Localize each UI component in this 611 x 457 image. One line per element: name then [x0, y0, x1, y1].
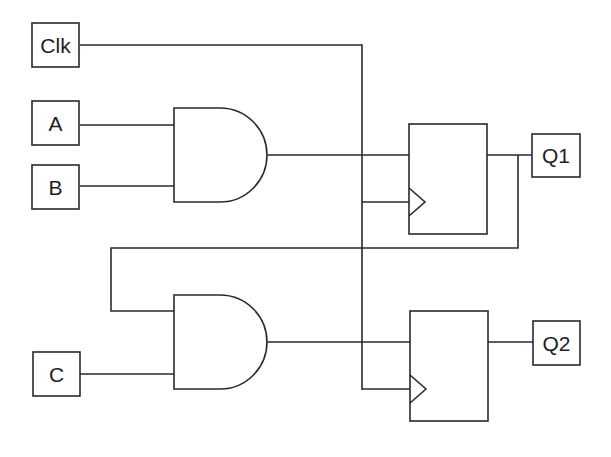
input-clk: Clk — [32, 23, 79, 67]
input-c-label: C — [49, 363, 64, 386]
output-q2-label: Q2 — [542, 332, 570, 355]
input-clk-label: Clk — [40, 34, 71, 57]
input-c: C — [33, 352, 80, 396]
input-b-label: B — [48, 176, 62, 199]
flip-flop-1 — [409, 124, 487, 234]
and-gate-2 — [174, 295, 267, 389]
and-gate-1 — [174, 108, 267, 202]
input-a-label: A — [48, 112, 62, 135]
input-a: A — [32, 101, 79, 145]
output-q2: Q2 — [533, 321, 580, 365]
flip-flop-2 — [410, 311, 488, 421]
output-q1: Q1 — [532, 134, 580, 177]
output-q1-label: Q1 — [542, 144, 570, 167]
circuit-diagram: Clk A B C Q1 Q2 — [0, 0, 611, 457]
input-b: B — [32, 165, 79, 209]
